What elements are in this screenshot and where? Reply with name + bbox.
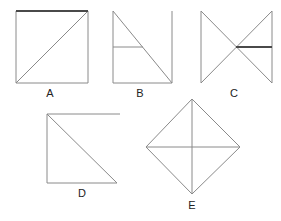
figure-e-label: E [188, 199, 195, 211]
figure-c-label: C [230, 87, 238, 99]
figure-a-diagonal [16, 11, 88, 83]
figure-b-label: B [136, 87, 143, 99]
geometry-figure-sheet: A B C D [0, 0, 281, 221]
figures-canvas: A B C D [0, 0, 281, 221]
figure-e-group: E [146, 99, 240, 211]
figure-a-group: A [16, 11, 88, 99]
figure-d-hypotenuse [47, 114, 117, 183]
figure-d-group: D [47, 114, 120, 199]
figure-d-label: D [78, 187, 86, 199]
figure-b-group: B [113, 11, 172, 99]
figure-c-group: C [201, 11, 272, 99]
figure-a-label: A [46, 87, 54, 99]
